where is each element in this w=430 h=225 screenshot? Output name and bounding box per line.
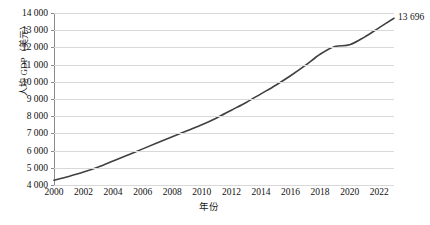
plot-area (54, 13, 394, 185)
y-axis-tick-label: 13 000 (22, 25, 48, 35)
x-axis-tick-label: 2008 (163, 186, 182, 198)
gridline (54, 13, 394, 14)
y-axis-tick-mark (51, 133, 54, 134)
x-axis-tick-label: 2002 (74, 186, 93, 198)
y-axis-tick-label: 7 000 (27, 128, 48, 138)
y-axis-tick-label: 12 000 (22, 42, 48, 52)
x-axis-tick-label: 2012 (222, 186, 241, 198)
gridline (54, 151, 394, 152)
y-axis-tick-mark (51, 99, 54, 100)
y-axis-tick-mark (51, 65, 54, 66)
y-axis-tick-mark (51, 13, 54, 14)
y-axis-tick-mark (51, 82, 54, 83)
x-axis-title: 年份 (0, 199, 430, 213)
data-point-label: 13 696 (398, 12, 424, 22)
gridline (54, 168, 394, 169)
y-axis-tick-label: 14 000 (22, 8, 48, 18)
gridline (54, 99, 394, 100)
x-axis-tick-label: 2004 (104, 186, 123, 198)
y-axis-tick-label: 10 000 (22, 77, 48, 87)
gridline (54, 47, 394, 48)
gridline (54, 82, 394, 83)
x-axis-tick-label: 2016 (281, 186, 300, 198)
gridline (54, 133, 394, 134)
y-axis-tick-mark (51, 30, 54, 31)
x-axis-tick-label: 2018 (311, 186, 330, 198)
x-axis-title-text: 年份 (199, 202, 219, 212)
y-axis-tick-mark (51, 116, 54, 117)
x-axis-tick-label: 2014 (252, 186, 271, 198)
y-axis-tick-label: 6 000 (27, 146, 48, 156)
chart-container: 人均 GDP（美元） 14 00013 00012 00011 00010 00… (0, 0, 430, 225)
x-axis-tick-label: 2006 (133, 186, 152, 198)
x-axis-tick-label: 2010 (192, 186, 211, 198)
y-axis-tick-label: 11 000 (22, 60, 48, 70)
gridline (54, 116, 394, 117)
y-axis-tick-label: 5 000 (27, 163, 48, 173)
y-axis-tick-label: 9 000 (27, 94, 48, 104)
y-axis-tick-mark (51, 168, 54, 169)
x-axis-tick-labels: 2000200220042006200820102012201420162018… (0, 186, 430, 200)
x-axis-tick-label: 2000 (45, 186, 64, 198)
x-axis-tick-label: 2020 (340, 186, 359, 198)
x-axis-tick-label: 2022 (370, 186, 389, 198)
y-axis-tick-mark (51, 151, 54, 152)
y-axis-tick-label: 8 000 (27, 111, 48, 121)
gridline (54, 65, 394, 66)
y-axis-tick-mark (51, 47, 54, 48)
gridline (54, 30, 394, 31)
